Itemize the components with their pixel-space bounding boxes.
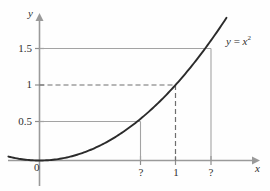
origin-label: 0 [34,162,40,173]
curve-equation-label: y = x2 [226,36,251,47]
y-axis-label: y [28,8,33,19]
y-tick-label-1: 1 [6,79,32,90]
equation-equals: = [231,35,243,47]
parabola-curve [8,18,226,161]
equation-rhs-exponent: 2 [248,34,252,42]
y-tick-label-0_5: 0.5 [6,116,32,127]
function-graph-figure: y x 0 1.5 1 0.5 ? 1 ? y = x2 [0,0,270,191]
x-tick-label-left-question: ? [133,167,149,178]
x-tick-label-one: 1 [168,167,184,178]
graph-canvas [0,0,270,191]
x-tick-label-right-question: ? [203,167,219,178]
y-tick-label-1_5: 1.5 [6,43,32,54]
y-axis-arrowhead [36,13,44,21]
x-axis-label: x [255,163,260,174]
